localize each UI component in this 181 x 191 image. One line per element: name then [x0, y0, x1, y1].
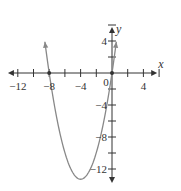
chart: −12−8−444−4−8−120xy	[0, 0, 181, 191]
x-tick-label: −4	[75, 80, 87, 92]
root-point	[110, 71, 114, 75]
x-axis-left-arrow	[8, 70, 14, 76]
ticks	[18, 25, 159, 169]
x-tick-label: −8	[43, 80, 55, 92]
y-tick-label: −12	[90, 163, 107, 175]
y-tick-label: −8	[95, 131, 107, 143]
y-axis-top-arrow	[109, 27, 115, 33]
x-tick-label: 4	[141, 80, 147, 92]
x-axis-label: x	[157, 57, 164, 71]
x-axis-right-arrow	[151, 70, 157, 76]
y-axis-bottom-arrow	[109, 177, 115, 183]
origin-label: 0	[103, 76, 109, 88]
root-point	[47, 71, 51, 75]
x-tick-label: −12	[9, 80, 26, 92]
y-axis-label: y	[115, 22, 122, 36]
axes	[8, 27, 157, 183]
y-tick-label: −4	[95, 99, 107, 111]
y-tick-label: 4	[102, 35, 108, 47]
labels: −12−8−444−4−8−120xy	[9, 22, 164, 175]
